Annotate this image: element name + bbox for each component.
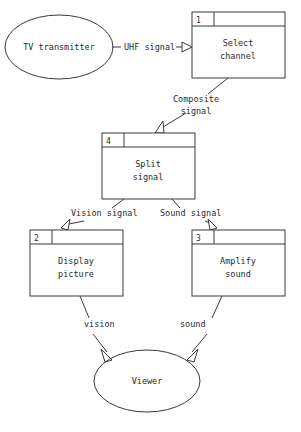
diagram-canvas: TV transmitter UHF signal 1 Select chann… [0,0,301,432]
split-signal-number: 4 [106,137,111,146]
split-signal-label-line2: signal [133,172,164,182]
uhf-signal-label: UHF signal [124,42,175,52]
vision-signal-arrowhead [61,219,70,230]
vision-label: vision [84,319,115,329]
process-amplify-sound[interactable]: 3 Amplify sound [192,230,285,296]
entity-tv-transmitter[interactable]: TV transmitter [5,15,113,79]
tv-transmitter-label: TV transmitter [23,42,95,52]
flow-vision-signal[interactable]: Vision signal [61,199,138,230]
dataflow-diagram: TV transmitter UHF signal 1 Select chann… [0,0,301,432]
amplify-sound-label-line2: sound [225,269,251,279]
amplify-sound-number: 3 [196,234,201,243]
uhf-signal-arrowhead [182,42,192,52]
split-signal-label-line1: Split [135,159,161,169]
select-channel-number: 1 [196,16,201,25]
sound-line-upper [212,296,222,318]
select-channel-label-line2: channel [220,51,256,61]
sound-label: sound [180,319,206,329]
process-select-channel[interactable]: 1 Select channel [192,12,285,78]
flow-vision[interactable]: vision [80,296,115,362]
vision-signal-line-upper [112,199,124,208]
vision-line-lower [93,334,107,352]
process-display-picture[interactable]: 2 Display picture [30,230,123,296]
composite-signal-line-upper [208,78,228,94]
composite-signal-arrowhead [155,121,164,133]
flow-sound[interactable]: sound [180,296,222,362]
vision-signal-label: Vision signal [71,208,138,218]
sound-signal-label: Sound signal [160,208,221,218]
flow-sound-signal[interactable]: Sound signal [160,199,221,230]
select-channel-label-line1: Select [223,38,254,48]
flow-uhf-signal[interactable]: UHF signal [112,42,192,52]
sound-signal-arrowhead [208,219,217,230]
vision-line-upper [80,296,89,318]
sound-signal-line-upper [172,199,180,208]
flow-composite-signal[interactable]: Composite signal [155,78,228,133]
display-picture-number: 2 [34,234,39,243]
display-picture-label-line2: picture [58,269,94,279]
composite-signal-label-line2: signal [181,106,212,116]
process-split-signal[interactable]: 4 Split signal [102,133,195,199]
entity-viewer[interactable]: Viewer [94,350,200,412]
vision-signal-line-lower [69,221,84,224]
sound-line-lower [192,334,207,352]
amplify-sound-label-line1: Amplify [220,256,256,266]
viewer-label: Viewer [132,376,163,386]
display-picture-label-line1: Display [58,256,94,266]
composite-signal-label-line1: Composite [173,94,219,104]
